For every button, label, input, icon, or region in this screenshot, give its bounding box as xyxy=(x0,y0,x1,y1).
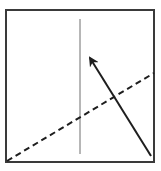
diagram-canvas xyxy=(0,0,161,171)
diagram-svg xyxy=(0,0,161,171)
direction-arrow xyxy=(90,58,151,156)
